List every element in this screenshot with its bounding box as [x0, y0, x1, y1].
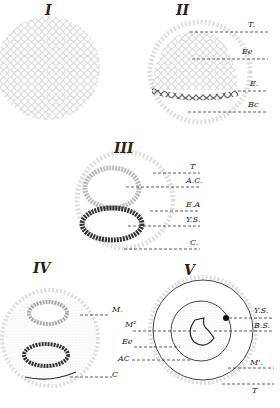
panel-title-2: II: [176, 2, 189, 18]
label-E: E.: [250, 79, 258, 88]
label-M: M.: [112, 305, 123, 314]
label-AC: A.C.: [186, 176, 203, 185]
label-T: T: [190, 162, 195, 171]
label-M-prime: M'.: [250, 358, 263, 367]
label-EA: E.A: [186, 200, 200, 209]
label-AC: AC: [118, 354, 130, 363]
label-M2: M²: [125, 320, 136, 329]
label-BS: B.S.: [254, 321, 270, 330]
label-YS: Y.S.: [254, 306, 269, 315]
panel-title-4: IV: [33, 260, 50, 276]
label-C: C: [112, 370, 118, 379]
label-T: T: [252, 386, 257, 395]
panel-3-yolk-sac: [82, 208, 142, 240]
label-YS: Y.S.: [186, 215, 201, 224]
panel-2-embryo: [152, 30, 238, 90]
panel-1-blastula: [0, 16, 100, 120]
label-Bc: Bc: [248, 100, 258, 109]
label-Ee: Ee: [242, 47, 253, 56]
embryo-figure: [0, 0, 280, 408]
label-T: T.: [248, 20, 255, 29]
panel-title-5: V: [184, 262, 195, 278]
panel-title-3: III: [114, 140, 134, 156]
panel-title-1: I: [45, 2, 52, 18]
label-Ee: Ee: [122, 337, 133, 346]
label-C: C.: [190, 238, 198, 247]
